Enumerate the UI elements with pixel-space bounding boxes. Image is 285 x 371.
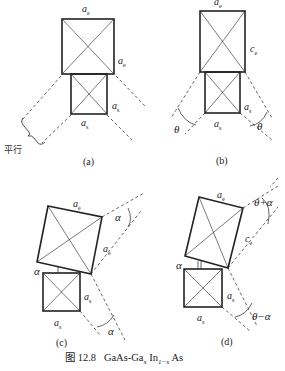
label-b-right: ce: [250, 44, 257, 56]
label-sub: s: [89, 298, 91, 304]
label-sub: e: [222, 196, 225, 202]
figure-caption: 图 12.8 GaAs-Gax In1−x As: [65, 353, 183, 366]
label-sub: e: [78, 205, 81, 211]
label-sub: e: [249, 240, 252, 246]
dashed-lines-a: [22, 76, 145, 143]
caption-a: (a): [83, 157, 94, 167]
epilayer-cell-d: [185, 197, 243, 268]
angle-b-left-theta: θ: [174, 124, 179, 135]
label-a-small-right: as: [112, 101, 119, 113]
caption-d: (d): [221, 337, 233, 347]
label-d-small-bottom: as: [197, 313, 204, 325]
label-d-small-right: as: [227, 291, 234, 303]
caption-b: (b): [216, 156, 228, 166]
figure-title-prefix: GaAs-Ga: [104, 352, 144, 363]
label-a-top: ae: [82, 4, 90, 16]
label-c-right: ae: [103, 244, 111, 256]
label-c-small-right: as: [84, 292, 91, 304]
figure-number: 图 12.8: [65, 352, 96, 363]
angle-arc-b-left: [178, 108, 196, 125]
label-c-small-bottom: as: [54, 318, 61, 330]
figure-title-sub2: 1−x: [158, 358, 169, 366]
label-d-top: ae: [217, 190, 225, 202]
label-b-top: ae: [214, 0, 222, 9]
caption-c: (c): [56, 338, 67, 348]
label-sub: e: [254, 50, 257, 56]
angle-d-bottom-theta-minus-alpha: θ−α: [252, 311, 271, 322]
brace-icon: [22, 118, 45, 144]
figure-title-suffix: As: [169, 352, 183, 363]
angle-c-top-alpha: α: [115, 212, 121, 223]
annotation-parallel: 平行: [4, 146, 22, 155]
figure-title-mid: In: [147, 352, 158, 363]
label-sub: s: [117, 107, 119, 113]
label-sub: e: [219, 3, 222, 9]
label-sub: s: [219, 125, 221, 131]
diagram-canvas: [0, 0, 285, 371]
angle-c-left-alpha: α: [34, 266, 40, 277]
angle-b-right-theta: θ: [257, 121, 262, 132]
label-sub: s: [202, 319, 204, 325]
label-sub: e: [108, 250, 111, 256]
label-sub: s: [59, 324, 61, 330]
label-a-small-bottom: as: [81, 118, 88, 130]
label-sub: s: [232, 297, 234, 303]
angle-d-top-theta-plus-alpha: θ+α: [254, 197, 273, 208]
label-sub: e: [87, 10, 90, 16]
angle-arc-d-bottom: [235, 303, 252, 317]
label-b-small-right: as: [244, 102, 251, 114]
label-b-small-bottom: as: [214, 119, 221, 131]
label-c-top: ae: [73, 199, 81, 211]
angle-d-left-alpha: α: [176, 260, 182, 271]
label-a-right: ae: [118, 56, 126, 68]
label-d-right: ce: [245, 234, 252, 246]
angle-c-bottom-alpha: α: [108, 326, 114, 337]
label-sub: s: [249, 108, 251, 114]
label-sub: s: [86, 124, 88, 130]
label-sub: e: [123, 62, 126, 68]
